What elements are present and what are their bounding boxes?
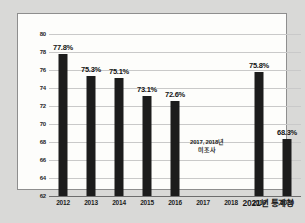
bar-value-label: 77.8% <box>53 43 73 52</box>
bar-value-label: 75.1% <box>109 67 129 76</box>
y-axis-tick-label: 68 <box>40 139 46 145</box>
gridline <box>49 34 301 35</box>
x-axis-tick-label: 2017 <box>196 199 210 206</box>
bar <box>143 96 152 196</box>
y-axis-tick-label: 74 <box>40 85 46 91</box>
y-axis-tick-label: 78 <box>40 49 46 55</box>
y-axis-tick-label: 80 <box>40 31 46 37</box>
chart-annotation: 2017, 2018년미조사 <box>190 138 224 154</box>
x-axis-tick-label: 2016 <box>168 199 182 206</box>
bar <box>115 78 124 196</box>
y-axis-tick-label: 66 <box>40 157 46 163</box>
chart-annotation-line-2: 미조사 <box>190 146 224 154</box>
y-axis-tick-label: 62 <box>40 193 46 199</box>
source-caption: 2021년 통계청 <box>243 196 294 208</box>
bar-value-label: 73.1% <box>137 85 157 94</box>
chart-frame: 80787674727068666462201277.8%201375.3%20… <box>17 13 287 190</box>
bar-value-label: 75.8% <box>249 61 269 70</box>
gridline <box>49 52 301 53</box>
x-axis-tick-label: 2013 <box>84 199 98 206</box>
bar <box>255 72 264 196</box>
x-axis-tick-label: 2018 <box>224 199 238 206</box>
bar-value-label: 75.3% <box>81 65 101 74</box>
x-axis-tick-label: 2012 <box>56 199 70 206</box>
y-axis-tick-label: 72 <box>40 103 46 109</box>
y-axis-tick-label: 70 <box>40 121 46 127</box>
y-axis-tick-label: 64 <box>40 175 46 181</box>
x-axis-tick-label: 2014 <box>112 199 126 206</box>
bar-value-label: 68.3% <box>277 128 297 137</box>
x-axis-tick-label: 2015 <box>140 199 154 206</box>
plot-area: 80787674727068666462201277.8%201375.3%20… <box>49 34 301 196</box>
bar <box>283 139 292 196</box>
bar <box>171 101 180 196</box>
bar <box>59 54 68 196</box>
figure-root: 80787674727068666462201277.8%201375.3%20… <box>0 0 305 223</box>
chart-annotation-line-1: 2017, 2018년 <box>190 138 224 146</box>
bar <box>87 76 96 196</box>
y-axis-tick-label: 76 <box>40 67 46 73</box>
bar-value-label: 72.6% <box>165 90 185 99</box>
